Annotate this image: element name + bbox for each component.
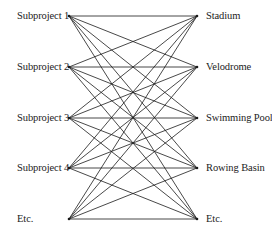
right-node-point-3 — [196, 117, 199, 120]
right-node-point-2 — [196, 66, 199, 69]
right-node-point-1 — [196, 15, 199, 18]
right-node-point-4 — [196, 167, 199, 170]
left-node-label-2: Subproject 2 — [17, 61, 69, 73]
left-node-point-5 — [68, 218, 71, 221]
right-node-label-etc: Etc. — [206, 213, 222, 225]
left-node-label-1: Subproject 1 — [17, 10, 69, 22]
right-node-label-stadium: Stadium — [206, 10, 240, 22]
right-node-point-5 — [196, 218, 199, 221]
bipartite-diagram: Subproject 1 Subproject 2 Subproject 3 S… — [0, 0, 272, 240]
left-node-label-4: Subproject 4 — [17, 162, 69, 174]
left-node-label-3: Subproject 3 — [17, 112, 69, 124]
right-node-label-velodrome: Velodrome — [206, 61, 251, 73]
right-node-label-rowing-basin: Rowing Basin — [206, 162, 265, 174]
right-node-label-swimming-pool: Swimming Pool — [206, 112, 272, 124]
left-node-label-etc: Etc. — [17, 213, 33, 225]
